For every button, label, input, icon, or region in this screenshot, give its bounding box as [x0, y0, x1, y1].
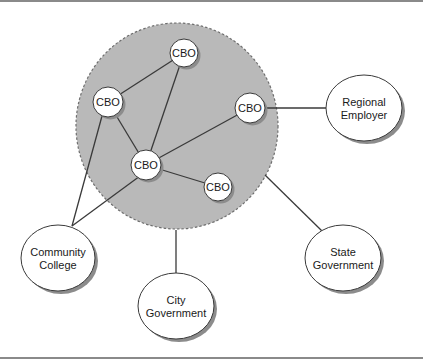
node-label-line: Community	[30, 246, 86, 258]
node-label: CBO	[134, 159, 158, 171]
node-label-line: State	[330, 246, 356, 258]
node-label-line: Government	[313, 259, 374, 271]
partner-network-diagram: CBOCBOCBOCBOCBO RegionalEmployerCommunit…	[0, 0, 423, 364]
node-label-line: College	[39, 259, 76, 271]
node-community-college: CommunityCollege	[21, 225, 98, 294]
node-regional-employer: RegionalEmployer	[326, 75, 405, 144]
node-label: CBO	[206, 181, 230, 193]
node-label-line: City	[167, 294, 186, 306]
node-label: CBO	[96, 96, 120, 108]
edge-cluster-to-state-government	[265, 175, 322, 231]
node-label: CBO	[172, 47, 196, 59]
node-label-line: Government	[146, 307, 207, 319]
node-label-line: Regional	[342, 96, 385, 108]
node-label: CBO	[238, 102, 262, 114]
node-city-government: CityGovernment	[138, 273, 217, 342]
node-label-line: Employer	[341, 109, 388, 121]
node-state-government: StateGovernment	[305, 225, 384, 294]
